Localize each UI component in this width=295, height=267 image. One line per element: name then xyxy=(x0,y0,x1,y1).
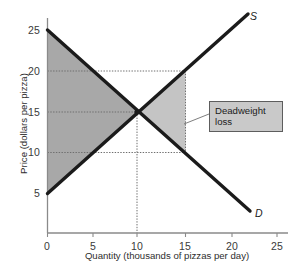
deadweight-loss-callout: Deadweight loss xyxy=(209,101,283,132)
y-tick-label-25: 25 xyxy=(18,24,40,36)
chart-canvas xyxy=(0,0,295,267)
supply-curve-label: S xyxy=(250,10,257,22)
deadweight-loss-leader-line xyxy=(184,114,209,124)
deadweight-loss-callout-line2: loss xyxy=(215,116,278,127)
y-axis-title: Price (dollars per pizza) xyxy=(18,54,29,194)
deadweight-loss-region xyxy=(137,71,186,153)
deadweight-loss-callout-line1: Deadweight xyxy=(215,105,278,116)
demand-curve-label: D xyxy=(255,207,263,219)
deadweight-loss-chart: 25 20 15 10 5 0 5 10 15 20 25 Price (dol… xyxy=(0,0,295,267)
equilibrium-point xyxy=(134,109,139,114)
x-axis-title: Quantity (thousands of pizzas per day) xyxy=(47,250,287,261)
